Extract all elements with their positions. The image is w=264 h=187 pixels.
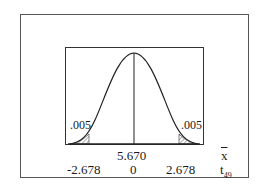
t-tick-center: 0	[130, 163, 137, 176]
left-tail-label: .005	[70, 119, 91, 131]
xbar-tick-label: 5.670	[117, 149, 146, 162]
t-tick-left: -2.678	[67, 163, 101, 176]
t-axis-label: t49	[220, 163, 232, 182]
t-tick-right: 2.678	[166, 163, 195, 176]
xbar-axis-label: x	[221, 149, 228, 162]
right-tail-label: .005	[181, 119, 202, 131]
t-df-subscript: 49	[224, 171, 232, 180]
